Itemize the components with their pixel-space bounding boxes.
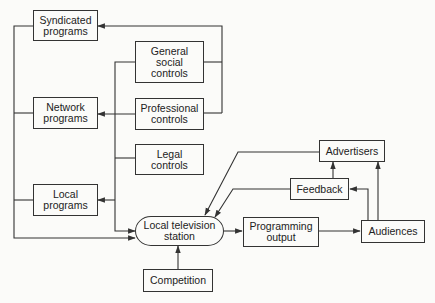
local-television-station-node: Local television station [135, 216, 224, 246]
general-social-controls-box: General social controls [135, 41, 204, 83]
syndicated-programs-box: Syndicated programs [33, 10, 98, 41]
legal-controls-box: Legal controls [135, 144, 204, 175]
feedback-label: Feedback [296, 184, 342, 195]
professional-controls-box: Professional controls [135, 98, 204, 130]
professional-controls-label: Professional controls [141, 103, 199, 125]
competition-box: Competition [143, 269, 213, 292]
programming-output-box: Programming output [243, 217, 319, 247]
advertisers-box: Advertisers [319, 140, 385, 162]
local-programs-label: Local programs [43, 189, 87, 211]
network-programs-box: Network programs [33, 97, 98, 129]
legal-controls-label: Legal controls [151, 149, 188, 171]
programming-output-label: Programming output [249, 221, 312, 243]
syndicated-programs-label: Syndicated programs [40, 15, 92, 37]
audiences-box: Audiences [361, 220, 425, 243]
local-television-station-label: Local television station [144, 220, 216, 242]
local-programs-box: Local programs [33, 184, 98, 216]
competition-label: Competition [150, 275, 206, 286]
advertisers-label: Advertisers [326, 146, 379, 157]
feedback-box: Feedback [290, 178, 349, 200]
audiences-label: Audiences [368, 226, 417, 237]
network-programs-label: Network programs [43, 102, 87, 124]
general-social-controls-label: General social controls [151, 46, 188, 79]
